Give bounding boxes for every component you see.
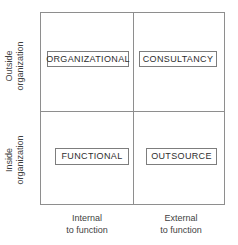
quadrant-label-outsource: OUTSOURCE bbox=[146, 148, 217, 165]
y-axis-label-inside-line2: organization bbox=[15, 118, 26, 202]
matrix-horizontal-divider bbox=[40, 111, 225, 112]
quadrant-label-organizational: ORGANIZATIONAL bbox=[47, 51, 129, 67]
quadrant-label-functional: FUNCTIONAL bbox=[55, 148, 129, 165]
y-axis-label-inside-line1: Inside bbox=[4, 118, 15, 202]
quadrant-matrix-diagram: ORGANIZATIONAL CONSULTANCY FUNCTIONAL OU… bbox=[0, 0, 238, 245]
y-axis-label-outside-line1: Outside bbox=[4, 24, 15, 108]
y-axis-label-outside-line2: organization bbox=[15, 24, 26, 108]
x-axis-label-internal-line1: Internal bbox=[45, 212, 129, 224]
x-axis-label-external-line2: to function bbox=[139, 224, 223, 236]
matrix-vertical-divider bbox=[133, 12, 134, 205]
x-axis-label-external-line1: External bbox=[139, 212, 223, 224]
y-axis-label-outside-organization: Outside organization bbox=[4, 24, 26, 108]
x-axis-label-external-to-function: External to function bbox=[139, 212, 223, 236]
quadrant-label-consultancy: CONSULTANCY bbox=[139, 51, 217, 67]
x-axis-label-internal-line2: to function bbox=[45, 224, 129, 236]
x-axis-label-internal-to-function: Internal to function bbox=[45, 212, 129, 236]
y-axis-label-inside-organization: Inside organization bbox=[4, 118, 26, 202]
